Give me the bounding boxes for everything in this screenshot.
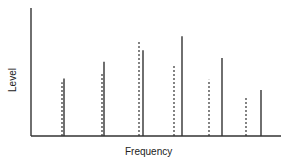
y-axis-label-text: Level <box>7 68 18 92</box>
y-axis-label: Level <box>2 60 22 100</box>
spectrum-lines <box>62 36 261 136</box>
x-axis-label: Frequency <box>125 146 172 157</box>
spectrum-chart <box>0 0 288 165</box>
